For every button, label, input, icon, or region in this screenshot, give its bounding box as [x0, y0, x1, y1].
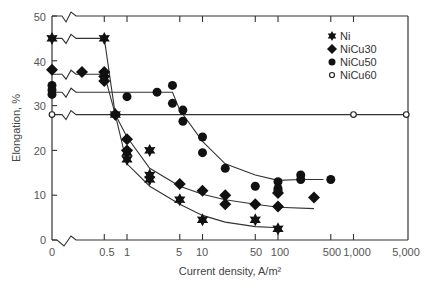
x-tick-100: 100	[271, 246, 289, 258]
x-tick-5: 5	[176, 246, 182, 258]
x-tick-1000: 1,000	[343, 246, 371, 258]
y-tick-10: 10	[34, 189, 46, 201]
y-tick-20: 20	[34, 145, 46, 157]
diamond-icon	[327, 44, 337, 54]
x-tick-10: 10	[196, 246, 208, 258]
legend-label-nicu30: NiCu30	[340, 43, 377, 55]
legend-item-nicu50: NiCu50	[329, 56, 377, 68]
y-axis-ticks	[52, 16, 57, 240]
x-tick-50: 50	[250, 246, 262, 258]
elongation-chart: 0 10 20 30 40 50 0 0.5 1 5 10 50 100 500…	[0, 0, 434, 287]
x-tick-labels: 0 0.5 1 5 10 50 100 500 1,000 5,000	[49, 246, 420, 258]
legend-label-nicu60: NiCu60	[340, 69, 377, 81]
legend-label-ni: Ni	[340, 30, 350, 42]
x-tick-5000: 5,000	[392, 246, 420, 258]
x-tick-0: 0	[49, 246, 55, 258]
star-icon	[328, 31, 337, 41]
y-tick-40: 40	[34, 56, 46, 68]
legend-item-nicu30: NiCu30	[327, 43, 377, 55]
legend-label-nicu50: NiCu50	[340, 56, 377, 68]
legend: Ni NiCu30 NiCu50 NiCu60	[327, 30, 377, 81]
x-tick-0-5: 0.5	[99, 246, 114, 258]
series-ni-points	[46, 32, 283, 235]
y-tick-labels: 0 10 20 30 40 50	[34, 11, 46, 246]
open-circle-icon	[330, 73, 335, 78]
x-axis-title: Current density, A/m²	[179, 265, 282, 277]
x-tick-500: 500	[323, 246, 341, 258]
y-axis-title: Elongation, %	[10, 94, 22, 162]
legend-item-ni: Ni	[328, 30, 351, 42]
y-tick-0: 0	[40, 234, 46, 246]
series-nicu50-points	[48, 81, 336, 195]
x-tick-1: 1	[124, 246, 130, 258]
y-tick-50: 50	[34, 11, 46, 23]
legend-item-nicu60: NiCu60	[330, 69, 377, 81]
y-tick-30: 30	[34, 100, 46, 112]
filled-circle-icon	[329, 59, 336, 66]
